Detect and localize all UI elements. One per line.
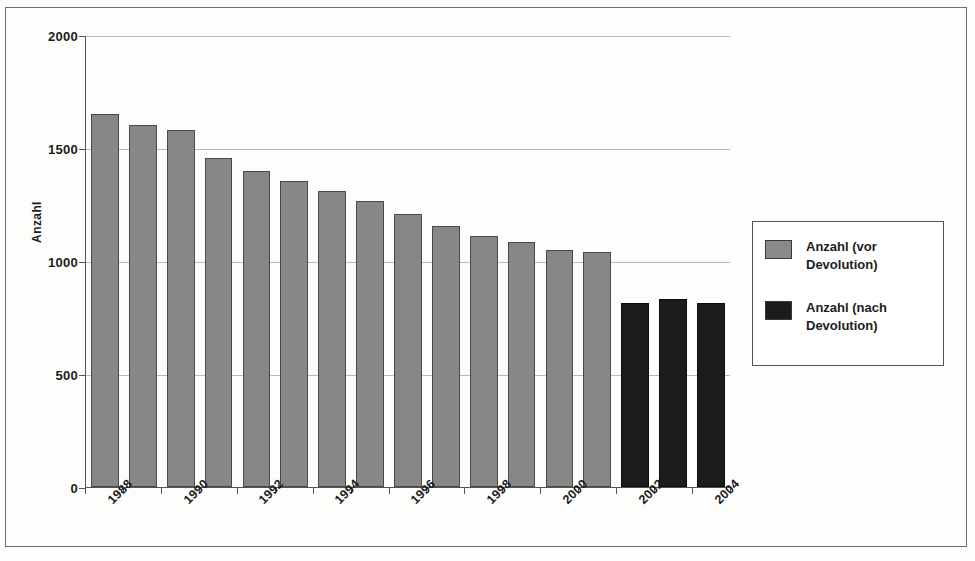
bar-slot	[503, 36, 541, 487]
bar	[280, 181, 308, 487]
chart-figure: Anzahl 0500100015002000 1988199019921994…	[0, 0, 975, 561]
bar	[508, 242, 536, 487]
bar-slot	[124, 36, 162, 487]
y-axis-tick-mark	[79, 488, 85, 489]
bar-slot	[616, 36, 654, 487]
y-axis-tick-label: 2000	[48, 29, 78, 44]
bar-slot	[389, 36, 427, 487]
bar	[394, 214, 422, 487]
bar	[697, 303, 725, 487]
x-axis-tick-mark	[464, 488, 465, 494]
bar	[546, 250, 574, 487]
x-axis-tick-mark	[237, 488, 238, 494]
bar-slot	[654, 36, 692, 487]
x-axis-tick-mark	[616, 488, 617, 494]
bar	[583, 252, 611, 487]
bar-slot	[692, 36, 730, 487]
y-axis-tick-label: 1000	[48, 255, 78, 270]
bar	[129, 125, 157, 487]
bar	[91, 114, 119, 487]
bar	[621, 303, 649, 487]
plot-area	[85, 36, 730, 488]
bar	[470, 236, 498, 487]
x-axis-tick-mark	[161, 488, 162, 494]
y-axis-tick-mark	[79, 375, 85, 376]
bar	[167, 130, 195, 487]
bar-slot	[465, 36, 503, 487]
x-axis-tick-mark	[85, 488, 86, 494]
x-axis-tick-mark	[540, 488, 541, 494]
y-axis-tick-mark	[79, 36, 85, 37]
y-axis-tick-label: 500	[55, 368, 78, 383]
bar-slot	[200, 36, 238, 487]
bar-group	[86, 36, 730, 487]
bar-slot	[86, 36, 124, 487]
gray-swatch-icon	[765, 240, 792, 259]
bar-slot	[162, 36, 200, 487]
bar	[659, 299, 687, 487]
bar-slot	[275, 36, 313, 487]
black-swatch-icon	[765, 301, 792, 320]
bar-slot	[351, 36, 389, 487]
y-axis-tick-label: 1500	[48, 142, 78, 157]
y-axis-tick-labels: 0500100015002000	[0, 36, 78, 488]
bar	[318, 191, 346, 487]
x-axis-tick-mark	[692, 488, 693, 494]
y-axis-tick-mark	[79, 149, 85, 150]
legend-label-pre-devolution: Anzahl (vor Devolution)	[806, 238, 928, 273]
legend-label-post-devolution: Anzahl (nach Devolution)	[806, 299, 928, 334]
bar	[356, 201, 384, 487]
x-axis-tick-mark	[389, 488, 390, 494]
bar-slot	[238, 36, 276, 487]
bar	[205, 158, 233, 487]
x-axis-tick-mark	[313, 488, 314, 494]
bar-slot	[427, 36, 465, 487]
chart-legend: Anzahl (vor Devolution) Anzahl (nach Dev…	[752, 221, 944, 366]
bar-slot	[541, 36, 579, 487]
bar-slot	[313, 36, 351, 487]
y-axis-tick-mark	[79, 262, 85, 263]
bar-slot	[578, 36, 616, 487]
legend-item-post-devolution: Anzahl (nach Devolution)	[765, 299, 933, 334]
y-axis-tick-label: 0	[70, 481, 78, 496]
bar	[243, 171, 271, 487]
legend-item-pre-devolution: Anzahl (vor Devolution)	[765, 238, 933, 273]
bar	[432, 226, 460, 487]
